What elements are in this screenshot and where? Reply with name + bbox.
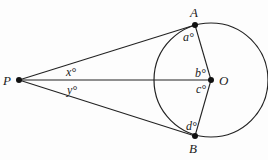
point-O <box>208 77 214 83</box>
point-P <box>16 77 22 83</box>
point-A <box>192 22 198 28</box>
angle-y-label: y° <box>66 83 77 97</box>
label-O: O <box>219 73 229 88</box>
diagram-svg: P O A B x° y° a° b° c° d° <box>0 0 268 160</box>
angle-c-label: c° <box>196 82 206 96</box>
label-A: A <box>189 5 198 20</box>
angle-b-label: b° <box>195 66 206 80</box>
angle-x-label: x° <box>65 65 76 79</box>
label-P: P <box>2 73 11 88</box>
angle-a-label: a° <box>183 30 194 44</box>
label-B: B <box>189 141 197 156</box>
segment-PA <box>19 25 195 80</box>
point-B <box>192 133 198 139</box>
angle-d-label: d° <box>186 119 197 133</box>
tangent-circle-diagram: P O A B x° y° a° b° c° d° <box>0 0 268 160</box>
segment-PB <box>19 80 195 136</box>
